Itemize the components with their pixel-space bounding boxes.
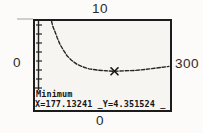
function-curve bbox=[52, 21, 170, 71]
calculator-screen-figure: 10 0 300 0 Minimum X=177.13241 _Y=4.3515… bbox=[0, 0, 203, 133]
coordinate-readout: X=177.13241 _Y=4.351524 _ bbox=[35, 100, 165, 109]
plot-layer bbox=[0, 0, 203, 133]
minimum-status-label: Minimum bbox=[36, 90, 73, 99]
